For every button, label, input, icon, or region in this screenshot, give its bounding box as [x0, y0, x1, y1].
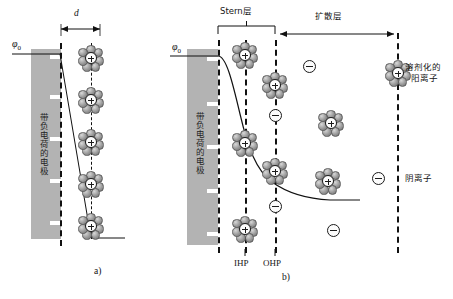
legend-line-1: 溶剂化的: [405, 62, 441, 73]
solvated-cation: [232, 130, 258, 156]
potential-curve-a: [0, 45, 160, 295]
diffuse-layer-label: 扩散层: [315, 11, 342, 22]
anion: [327, 224, 340, 237]
solvated-cation: [78, 213, 104, 239]
solvated-cation: [318, 110, 344, 136]
stern-layer-label: Stern层: [220, 6, 252, 17]
double-layer-figure: 带负电荷的电极 d φ0: [0, 0, 453, 299]
legend-line-2: 阳离子: [405, 73, 441, 84]
distance-arrow-a: [52, 20, 112, 38]
ihp-label: IHP: [234, 258, 249, 269]
solvated-cation: [262, 158, 288, 184]
panel-a: 带负电荷的电极 d φ0: [0, 0, 160, 299]
solvated-cation: [232, 216, 258, 242]
panel-caption-b: b): [282, 272, 290, 282]
legend-anion-glyph: [372, 172, 385, 185]
anion: [269, 109, 282, 122]
panel-b: 带负电荷的电极 Stern层 扩散层 φ0: [160, 0, 453, 299]
legend-solvated-cation-label: 溶剂化的 阳离子: [405, 62, 441, 83]
ohp-label: OHP: [263, 258, 281, 269]
distance-label-d: d: [74, 8, 79, 18]
anion: [269, 200, 282, 213]
panel-caption-a: a): [94, 266, 101, 276]
solvated-cation: [232, 42, 258, 68]
solvated-cation: [78, 45, 104, 71]
solvated-cation: [78, 171, 104, 197]
anion: [303, 60, 316, 73]
solvated-cation: [315, 168, 341, 194]
diffuse-layer-arrow: [274, 26, 400, 42]
solvated-cation: [78, 87, 104, 113]
solvated-cation: [262, 72, 288, 98]
solvated-cation: [78, 129, 104, 155]
legend-anion-label: 阴离子: [405, 173, 432, 184]
